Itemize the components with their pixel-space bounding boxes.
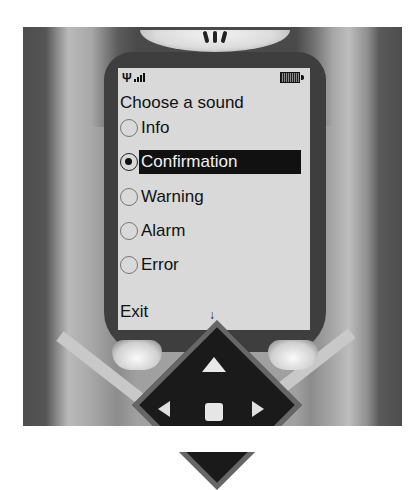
left-softkey-button[interactable] xyxy=(112,340,162,370)
battery-icon xyxy=(280,72,300,83)
scroll-down-arrow-icon: ↓ xyxy=(209,308,215,322)
option-label: Info xyxy=(139,116,171,140)
earpiece-slot xyxy=(213,31,217,43)
sound-option-warning[interactable]: Warning xyxy=(120,185,206,209)
dpad-right-arrow-icon[interactable] xyxy=(252,401,264,417)
radio-button-icon[interactable] xyxy=(120,222,138,240)
sound-option-confirmation[interactable]: Confirmation xyxy=(120,150,301,174)
radio-button-icon[interactable] xyxy=(120,188,138,206)
option-label: Warning xyxy=(139,185,206,209)
exit-softkey-label[interactable]: Exit xyxy=(120,302,148,322)
radio-button-icon[interactable] xyxy=(120,256,138,274)
background xyxy=(0,426,419,452)
option-label: Confirmation xyxy=(139,150,301,174)
option-label: Error xyxy=(139,253,181,277)
radio-button-icon[interactable] xyxy=(120,119,138,137)
sound-option-info[interactable]: Info xyxy=(120,116,171,140)
screen-title: Choose a sound xyxy=(120,93,244,113)
signal-strength-icon xyxy=(134,73,145,82)
phone-screen: Ψ Choose a sound Info Confirmation Warni… xyxy=(118,68,310,330)
dpad-select-button[interactable] xyxy=(205,403,223,421)
dpad-left-arrow-icon[interactable] xyxy=(158,401,170,417)
antenna-icon: Ψ xyxy=(122,71,132,85)
sound-option-error[interactable]: Error xyxy=(120,253,181,277)
option-label: Alarm xyxy=(139,219,187,243)
sound-option-alarm[interactable]: Alarm xyxy=(120,219,187,243)
status-bar: Ψ xyxy=(118,68,310,90)
radio-button-selected-icon[interactable] xyxy=(120,153,138,171)
right-softkey-button[interactable] xyxy=(268,340,318,370)
dpad-up-arrow-icon[interactable] xyxy=(202,357,226,372)
